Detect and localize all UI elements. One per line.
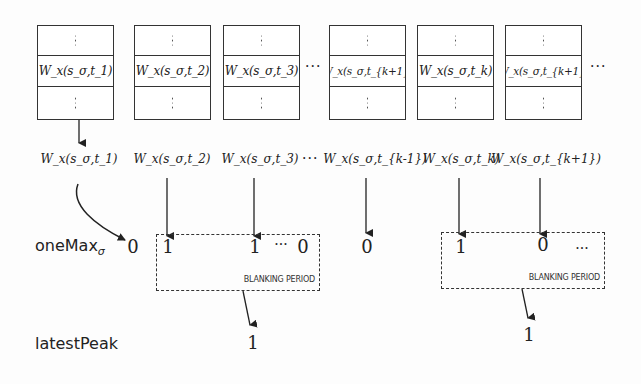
blanking-period-label: BLANKING PERIOD	[529, 273, 600, 282]
ellipsis-icon: ···	[274, 236, 287, 252]
latestpeak-value: 1	[247, 332, 258, 353]
arrows-layer	[0, 0, 641, 384]
onemax-value: 0	[127, 236, 138, 257]
onemax-value: 1	[455, 236, 466, 257]
latestpeak-row-label: latestPeak	[35, 334, 118, 353]
blanking-period-box: BLANKING PERIOD	[156, 234, 320, 291]
onemax-value: 1	[162, 236, 173, 257]
latestpeak-value: 1	[523, 324, 534, 345]
onemax-value: 1	[249, 236, 260, 257]
blanking-period-label: BLANKING PERIOD	[244, 275, 315, 284]
blanking-period-diagram: W_x(s_σ,t_1) W_x(s_σ,t_2) W_x(s_σ,t_3) ·…	[0, 0, 641, 384]
ellipsis-icon: ...	[575, 236, 588, 252]
onemax-value: 0	[537, 234, 548, 255]
onemax-row-label: oneMaxσ	[35, 236, 105, 258]
onemax-value: 0	[297, 236, 308, 257]
onemax-value: 0	[361, 236, 372, 257]
